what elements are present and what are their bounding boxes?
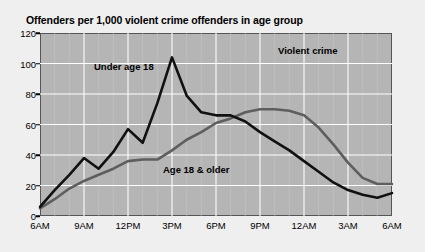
y-axis-tick-label: 60 — [25, 119, 36, 130]
annotation-age-18-and-older: Age 18 & older — [163, 164, 230, 175]
y-axis-tick-label: 100 — [20, 58, 36, 69]
y-axis-tick-mark — [36, 32, 40, 34]
y-axis-tick-label: 40 — [25, 150, 36, 161]
y-axis-tick-label: 20 — [25, 180, 36, 191]
x-axis-tick-label: 3AM — [338, 220, 358, 231]
x-axis-tick-label: 6AM — [30, 220, 50, 231]
y-axis-tick-mark — [36, 63, 40, 65]
violent-crime-offenders-chart: Offenders per 1,000 violent crime offend… — [0, 0, 425, 252]
x-axis-tick-label: 12AM — [292, 220, 317, 231]
data-series-layer — [40, 33, 392, 216]
x-axis-tick-label: 9AM — [74, 220, 94, 231]
y-axis-tick-mark — [36, 93, 40, 95]
y-axis-tick-mark — [36, 154, 40, 156]
annotation-under-age-18: Under age 18 — [94, 61, 154, 72]
x-axis-tick-label: 9PM — [250, 220, 270, 231]
x-axis-tick-label: 3PM — [162, 220, 182, 231]
y-axis-tick-label: 120 — [20, 28, 36, 39]
series-line-under-age-18 — [40, 57, 392, 206]
annotation-violent-crime: Violent crime — [278, 45, 338, 56]
y-axis-tick-mark — [36, 215, 40, 217]
series-line-age-18-and-older — [40, 109, 392, 208]
x-axis-tick-label: 6AM — [382, 220, 402, 231]
y-axis-tick-mark — [36, 185, 40, 187]
plot-area: 020406080100120 6AM9AM12PM3PM6PM9PM12AM3… — [40, 33, 392, 216]
x-axis-tick-label: 12PM — [116, 220, 141, 231]
chart-title: Offenders per 1,000 violent crime offend… — [26, 14, 303, 26]
x-axis-tick-label: 6PM — [206, 220, 226, 231]
y-axis-tick-mark — [36, 124, 40, 126]
y-axis-tick-label: 80 — [25, 89, 36, 100]
